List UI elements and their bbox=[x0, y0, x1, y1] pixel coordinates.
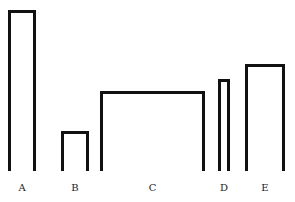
bar-label-e: E bbox=[261, 182, 268, 193]
bar-label-d: D bbox=[220, 182, 228, 193]
bar-label-c: C bbox=[149, 182, 157, 193]
bar-d bbox=[218, 79, 230, 171]
bar-diagram: ABCDE bbox=[0, 0, 295, 202]
bar-e bbox=[245, 64, 285, 171]
bar-label-b: B bbox=[71, 182, 78, 193]
bar-c bbox=[100, 91, 205, 171]
bar-b bbox=[61, 131, 89, 171]
bar-label-a: A bbox=[18, 182, 25, 193]
bar-a bbox=[8, 10, 36, 171]
